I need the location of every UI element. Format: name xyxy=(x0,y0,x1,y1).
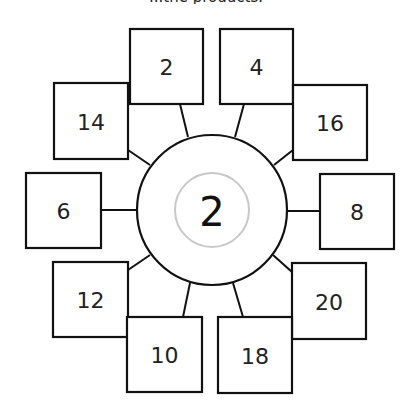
number-box-upper-right: 16 xyxy=(293,85,367,160)
box-number: 20 xyxy=(315,290,343,315)
number-box-lower-right: 20 xyxy=(292,263,366,339)
number-box-bottom-left: 10 xyxy=(127,317,202,392)
number-box-top-left: 2 xyxy=(130,29,203,104)
box-number: 10 xyxy=(151,343,179,368)
number-box-upper-left: 14 xyxy=(54,83,128,159)
center-hub: 2 xyxy=(137,135,287,285)
connector-top-right xyxy=(235,104,244,137)
connector-lower-right xyxy=(273,255,292,272)
box-number: 6 xyxy=(57,199,71,224)
connector-upper-right xyxy=(274,150,293,165)
box-number: 16 xyxy=(316,111,344,136)
box-number: 8 xyxy=(350,200,364,225)
box-number: 12 xyxy=(77,288,105,313)
connector-bottom-left xyxy=(183,283,190,317)
hub-number: 2 xyxy=(199,189,224,235)
connector-upper-left xyxy=(128,150,150,165)
number-box-bottom-right: 18 xyxy=(218,317,292,393)
connector-bottom-right xyxy=(233,283,243,317)
multiplication-wheel-diagram: 2 2414166812201018 xyxy=(0,0,412,414)
number-box-left: 6 xyxy=(26,173,101,248)
number-box-right: 8 xyxy=(320,174,394,249)
number-box-lower-left: 12 xyxy=(53,262,128,337)
box-number: 4 xyxy=(250,55,264,80)
box-number: 2 xyxy=(160,55,174,80)
connector-lower-left xyxy=(128,255,150,270)
number-box-top-right: 4 xyxy=(220,29,293,104)
box-number: 14 xyxy=(77,110,105,135)
connector-top-left xyxy=(180,104,188,137)
box-number: 18 xyxy=(241,344,269,369)
